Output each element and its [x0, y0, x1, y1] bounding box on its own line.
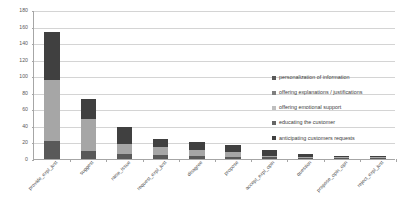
legend-label: educating the customer	[279, 120, 335, 125]
bar-segment	[153, 155, 168, 159]
y-axis-tick-label: 160	[2, 25, 28, 30]
bar-column[interactable]	[334, 156, 349, 159]
bar-segment	[81, 99, 96, 119]
y-axis-tick-label: 120	[2, 58, 28, 63]
x-axis-label: question	[295, 160, 312, 177]
bar-segment	[117, 144, 132, 154]
bar-column[interactable]	[81, 99, 96, 159]
bar-segment	[298, 158, 313, 159]
bar-segment	[117, 127, 132, 144]
bar-column[interactable]	[117, 127, 132, 159]
legend-swatch-icon	[272, 121, 276, 125]
bar-segment	[189, 156, 204, 159]
bar-segment	[225, 145, 240, 152]
bar-column[interactable]	[262, 150, 277, 159]
bar-segment	[81, 151, 96, 159]
x-axis-label: reject_expl_just	[356, 160, 384, 188]
x-axis-label: suggest	[79, 160, 95, 176]
legend-label: personalization of information	[279, 75, 349, 80]
bar-column[interactable]	[298, 154, 313, 159]
legend-item[interactable]: anticipating customers requests	[272, 131, 402, 146]
y-axis-tick-label: 20	[2, 140, 28, 145]
chart-legend: personalization of informationoffering e…	[272, 70, 402, 146]
bar-segment	[117, 154, 132, 159]
y-axis-tick-label: 100	[2, 74, 28, 79]
y-axis-tick-label: 180	[2, 8, 28, 13]
legend-label: offering explanations / justifications	[279, 90, 363, 95]
legend-swatch-icon	[272, 76, 276, 80]
y-axis-tick-label: 60	[2, 107, 28, 112]
legend-label: anticipating customers requests	[279, 136, 355, 141]
x-axis-label: accept_expl_opin	[245, 160, 276, 191]
bar-segment	[44, 141, 59, 159]
bar-segment	[189, 142, 204, 150]
bar-segment	[44, 32, 59, 80]
bar-column[interactable]	[370, 156, 385, 159]
x-axis-label: raise_issue	[110, 160, 131, 181]
y-axis-tick-label: 80	[2, 91, 28, 96]
legend-item[interactable]: offering emotional support	[272, 100, 402, 115]
bar-segment	[334, 158, 349, 159]
bar-column[interactable]	[225, 145, 240, 159]
x-axis-label: request_expl_just	[136, 160, 167, 191]
x-axis-label: disagree	[186, 160, 203, 177]
bar-segment	[81, 119, 96, 150]
bar-segment	[153, 139, 168, 147]
y-axis-tick-label: 40	[2, 124, 28, 129]
bar-segment	[44, 80, 59, 140]
bar-column[interactable]	[44, 32, 59, 159]
legend-item[interactable]: offering explanations / justifications	[272, 85, 402, 100]
x-axis-labels: provide_expl_justsuggestraise_issuereque…	[0, 160, 402, 219]
legend-label: offering emotional support	[279, 105, 341, 110]
bar-segment	[370, 158, 385, 159]
bar-column[interactable]	[153, 139, 168, 159]
legend-item[interactable]: educating the customer	[272, 116, 402, 131]
legend-swatch-icon	[272, 91, 276, 95]
legend-swatch-icon	[272, 106, 276, 110]
bar-segment	[225, 157, 240, 159]
legend-swatch-icon	[272, 136, 276, 140]
x-axis-label: provide_expl_just	[28, 160, 59, 191]
y-axis-tick-label: 140	[2, 41, 28, 46]
legend-item[interactable]: personalization of information	[272, 70, 402, 85]
x-axis-label: propose	[223, 160, 239, 176]
bar-chart: 020406080100120140160180 provide_expl_ju…	[0, 0, 402, 219]
bar-column[interactable]	[189, 142, 204, 159]
bar-segment	[262, 157, 277, 159]
bar-segment	[153, 147, 168, 154]
x-axis-label: propose_opin_opn	[315, 160, 348, 193]
